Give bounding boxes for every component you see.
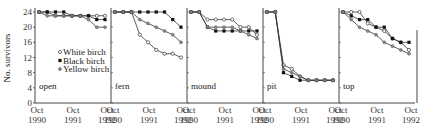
x-tick-label: Oct — [183, 105, 196, 115]
panel-label: pit — [267, 81, 277, 91]
x-tick-label: 1990 — [332, 115, 351, 125]
panel-top: topOct1990Oct1991Oct1992 — [332, 8, 420, 125]
x-tick-label: Oct — [405, 105, 418, 115]
y-axis-label: No. survivors — [2, 33, 12, 82]
x-tick-label: 1990 — [180, 115, 199, 125]
legend: White birchBlack birchYellow birch — [58, 47, 109, 74]
y-tick-label: 12 — [23, 53, 32, 63]
panel-label: top — [343, 81, 355, 91]
x-tick-label: Oct — [371, 105, 384, 115]
x-tick-label: 1991 — [368, 115, 386, 125]
x-tick-label: Oct — [67, 105, 80, 115]
series-yellow_birch — [115, 12, 181, 42]
x-tick-label: Oct — [219, 105, 232, 115]
panel-label: open — [39, 81, 57, 91]
x-tick-label: 1991 — [216, 115, 234, 125]
series-yellow_birch — [343, 12, 409, 54]
x-tick-label: 1990 — [104, 115, 123, 125]
panel-label: fern — [115, 81, 130, 91]
x-tick-label: Oct — [335, 105, 348, 115]
panel-mound: moundOct1990Oct1991Oct1992 — [180, 8, 268, 125]
y-tick-label: 24 — [23, 7, 33, 17]
x-tick-label: Oct — [31, 105, 44, 115]
x-tick-label: Oct — [143, 105, 156, 115]
panel-label: mound — [191, 81, 217, 91]
x-tick-label: 1991 — [140, 115, 158, 125]
x-tick-label: 1992 — [402, 115, 420, 125]
series-white_birch — [343, 12, 409, 50]
panel-fern: fernOct1990Oct1991Oct1992 — [104, 8, 192, 125]
y-tick-label: 20 — [23, 22, 33, 32]
x-tick-label: 1990 — [28, 115, 47, 125]
x-tick-label: Oct — [107, 105, 120, 115]
x-tick-label: Oct — [259, 105, 272, 115]
series-yellow_birch — [267, 12, 333, 80]
y-tick-label: 4 — [28, 83, 33, 93]
panel-pit: pitOct1990Oct1991Oct1992 — [256, 8, 344, 125]
x-tick-label: 1990 — [256, 115, 275, 125]
survivorship-figure: No. survivors04812162024openOct1990Oct19… — [0, 0, 432, 126]
legend-item: Yellow birch — [63, 64, 110, 74]
y-tick-label: 16 — [23, 37, 33, 47]
x-tick-label: 1991 — [64, 115, 82, 125]
x-tick-label: Oct — [295, 105, 308, 115]
x-tick-label: 1991 — [292, 115, 310, 125]
y-tick-label: 8 — [28, 68, 33, 78]
